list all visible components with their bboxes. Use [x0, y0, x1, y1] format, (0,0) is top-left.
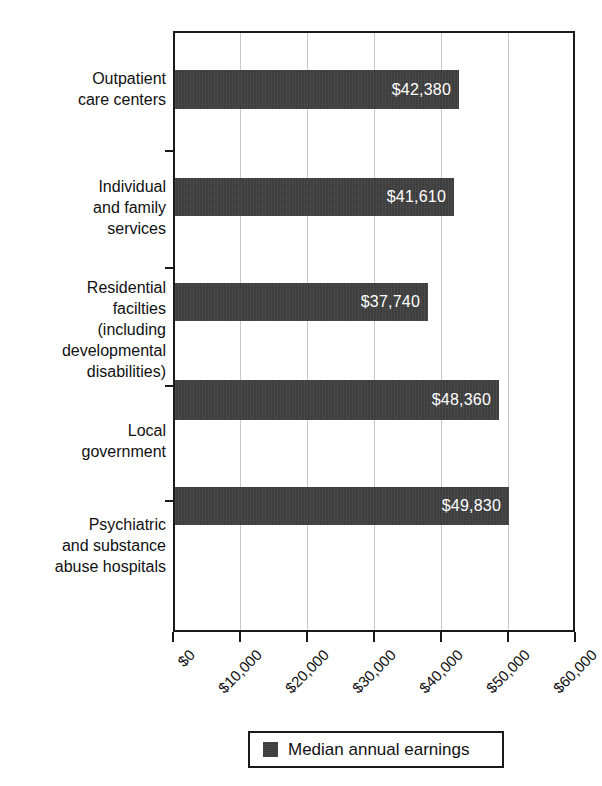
- legend-label: Median annual earnings: [288, 740, 469, 760]
- xtick-40000: [440, 632, 442, 642]
- bar-value-label: $48,360: [432, 391, 491, 409]
- bar-psychiatric-and-substance-abuse-hospitals[interactable]: $49,830: [175, 487, 509, 525]
- xtick-label-30000: $30,000: [349, 646, 399, 696]
- bar-value-label: $41,610: [387, 188, 446, 206]
- xtick-10000: [239, 632, 241, 642]
- plot-area: $42,380 $41,610 $37,740 $48,360 $49,830: [173, 31, 575, 632]
- chart-legend: Median annual earnings: [248, 731, 504, 768]
- bar-individual-and-family-services[interactable]: $41,610: [175, 178, 454, 216]
- category-label-2: Residential facilties (including develop…: [8, 277, 166, 382]
- bar-value-label: $42,380: [392, 81, 451, 99]
- bar-outpatient-care-centers[interactable]: $42,380: [175, 70, 459, 109]
- category-label-0: Outpatient care centers: [8, 68, 166, 110]
- xtick-20000: [306, 632, 308, 642]
- gridline-10000: [240, 33, 241, 630]
- category-label-3: Local government: [8, 420, 166, 462]
- gridline-50000: [508, 33, 509, 630]
- gridline-40000: [441, 33, 442, 630]
- category-label-4: Psychiatric and substance abuse hospital…: [8, 514, 166, 577]
- bar-residential-facilties[interactable]: $37,740: [175, 283, 428, 321]
- bar-local-government[interactable]: $48,360: [175, 380, 499, 420]
- xtick-label-50000: $50,000: [483, 646, 533, 696]
- bar-value-label: $37,740: [361, 293, 420, 311]
- xtick-0: [172, 632, 174, 642]
- xtick-label-0: $0: [174, 646, 198, 670]
- category-label-1: Individual and family services: [8, 176, 166, 239]
- xtick-label-20000: $20,000: [282, 646, 332, 696]
- xtick-60000: [574, 632, 576, 642]
- xtick-50000: [507, 632, 509, 642]
- legend-swatch-icon: [263, 742, 278, 757]
- bar-value-label: $49,830: [442, 497, 501, 515]
- gridline-20000: [307, 33, 308, 630]
- xtick-label-40000: $40,000: [416, 646, 466, 696]
- bar-chart: Outpatient care centers Individual and f…: [0, 0, 602, 786]
- xtick-label-10000: $10,000: [215, 646, 265, 696]
- xtick-label-60000: $60,000: [550, 646, 600, 696]
- gridline-30000: [374, 33, 375, 630]
- xtick-30000: [373, 632, 375, 642]
